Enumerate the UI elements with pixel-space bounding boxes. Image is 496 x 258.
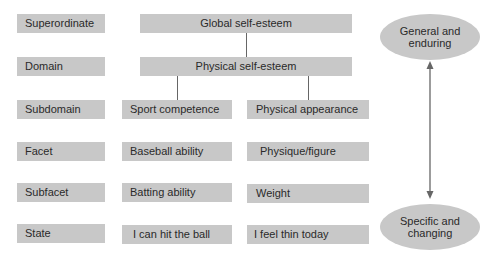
double-arrow-icon bbox=[0, 0, 496, 258]
